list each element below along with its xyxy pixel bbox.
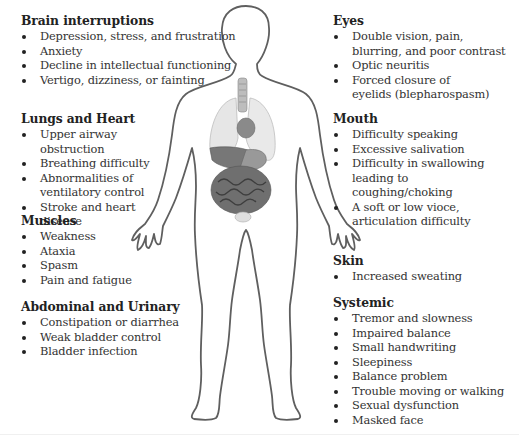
section-title: Lungs and Heart: [21, 111, 171, 126]
bullet-icon: [22, 250, 26, 254]
bullet-icon: [22, 177, 26, 181]
bullet-icon: [22, 64, 26, 68]
bullet-icon: [334, 375, 338, 379]
bullet-icon: [22, 279, 26, 283]
list-item: Depression, stress, and frustration: [21, 29, 236, 44]
list-item: Anxiety: [21, 44, 236, 59]
section-systemic: Systemic Tremor and slowness Impaired ba…: [333, 295, 504, 427]
bullet-icon: [334, 317, 338, 321]
list-item: Masked face: [333, 413, 504, 428]
bullet-icon: [22, 50, 26, 54]
list-item: Upper airway obstruction: [21, 127, 171, 156]
list-item: Optic neuritis: [333, 58, 513, 73]
bullet-icon: [22, 162, 26, 166]
list-item: Double vision, pain, blurring, and poor …: [333, 29, 513, 58]
list-item: Vertigo, dizziness, or fainting: [21, 73, 236, 88]
bullet-icon: [334, 390, 338, 394]
section-title: Muscles: [21, 213, 132, 228]
section-abdominal-and-urinary: Abdominal and Urinary Constipation or di…: [21, 299, 180, 359]
bottom-divider: [0, 434, 519, 435]
section-skin: Skin Increased sweating: [333, 253, 462, 284]
symptom-list: Difficulty speaking Excessive salivation…: [333, 127, 517, 229]
list-item: Constipation or diarrhea: [21, 315, 180, 330]
list-item: Trouble moving or walking: [333, 384, 504, 399]
bullet-icon: [334, 404, 338, 408]
bullet-icon: [334, 332, 338, 336]
bullet-icon: [22, 133, 26, 137]
list-item: Ataxia: [21, 244, 132, 259]
bullet-icon: [22, 79, 26, 83]
bullet-icon: [334, 79, 338, 83]
symptom-list: Depression, stress, and frustration Anxi…: [21, 29, 236, 87]
symptom-list: Weakness Ataxia Spasm Pain and fatigue: [21, 229, 132, 287]
list-item: Tremor and slowness: [333, 311, 504, 326]
section-title: Skin: [333, 253, 462, 268]
bullet-icon: [22, 350, 26, 354]
symptom-list: Constipation or diarrhea Weak bladder co…: [21, 315, 180, 359]
bullet-icon: [22, 235, 26, 239]
list-item: Weakness: [21, 229, 132, 244]
list-item: Decline in intellectual functioning: [21, 58, 236, 73]
section-title: Brain interruptions: [21, 13, 236, 28]
bullet-icon: [22, 206, 26, 210]
list-item: A soft or low vioce, articulation diffic…: [333, 200, 517, 229]
bullet-icon: [334, 419, 338, 423]
list-item: Weak bladder control: [21, 330, 180, 345]
bullet-icon: [22, 264, 26, 268]
list-item: Forced closure of eyelids (blepharospasm…: [333, 73, 492, 102]
bullet-icon: [22, 336, 26, 340]
list-item: Increased sweating: [333, 269, 462, 284]
list-item: Difficulty speaking: [333, 127, 517, 142]
list-item: Breathing difficulty: [21, 156, 171, 171]
section-title: Mouth: [333, 111, 517, 126]
section-title: Systemic: [333, 295, 504, 310]
list-item: Pain and fatigue: [21, 273, 132, 288]
list-item: Sleepiness: [333, 355, 504, 370]
list-item: Balance problem: [333, 369, 504, 384]
bullet-icon: [334, 148, 338, 152]
symptom-list: Increased sweating: [333, 269, 462, 284]
list-item: Spasm: [21, 258, 132, 273]
list-item: Impaired balance: [333, 326, 504, 341]
symptom-list: Double vision, pain, blurring, and poor …: [333, 29, 513, 102]
bullet-icon: [334, 346, 338, 350]
list-item: Bladder infection: [21, 344, 180, 359]
list-item: Small handwriting: [333, 340, 504, 355]
bullet-icon: [334, 361, 338, 365]
bullet-icon: [334, 133, 338, 137]
section-eyes: Eyes Double vision, pain, blurring, and …: [333, 13, 513, 102]
list-item: Sexual dysfunction: [333, 398, 504, 413]
list-item: Excessive salivation: [333, 142, 517, 157]
bullet-icon: [334, 162, 338, 166]
bullet-icon: [334, 206, 338, 210]
symptom-list: Tremor and slowness Impaired balance Sma…: [333, 311, 504, 427]
bullet-icon: [22, 35, 26, 39]
bullet-icon: [334, 35, 338, 39]
section-lungs-and-heart: Lungs and Heart Upper airway obstruction…: [21, 111, 171, 229]
list-item: Difficulty in swallowing leading to coug…: [333, 156, 512, 200]
section-brain-interruptions: Brain interruptions Depression, stress, …: [21, 13, 236, 87]
bullet-icon: [334, 64, 338, 68]
bullet-icon: [334, 275, 338, 279]
section-muscles: Muscles Weakness Ataxia Spasm Pain and f…: [21, 213, 132, 287]
bullet-icon: [22, 321, 26, 325]
list-item: Abnormalities of ventilatory control: [21, 171, 150, 200]
organs-icon: [210, 78, 275, 222]
section-title: Abdominal and Urinary: [21, 299, 180, 314]
section-title: Eyes: [333, 13, 513, 28]
section-mouth: Mouth Difficulty speaking Excessive sali…: [333, 111, 517, 229]
